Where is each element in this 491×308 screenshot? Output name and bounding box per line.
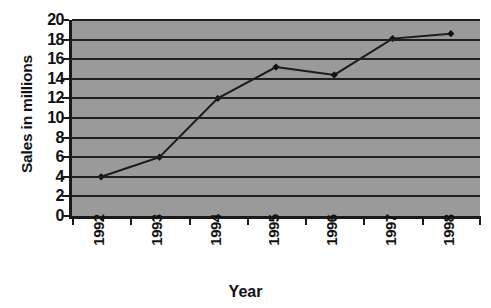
data-point-1998 xyxy=(447,30,454,37)
gridline-2 xyxy=(72,195,480,197)
data-point-1995 xyxy=(272,63,279,70)
x-tick-mark-2 xyxy=(189,216,191,225)
x-tick-label-1992: 1992 xyxy=(90,207,107,253)
x-tick-mark-0 xyxy=(72,216,74,225)
x-tick-mark-5 xyxy=(363,216,365,225)
x-tick-mark-4 xyxy=(305,216,307,225)
y-tick-label-18: 18 xyxy=(38,32,64,48)
gridline-20 xyxy=(72,19,480,21)
plot-area xyxy=(69,20,480,219)
y-tick-mark-20 xyxy=(62,19,69,21)
gridline-10 xyxy=(72,117,480,119)
y-tick-mark-0 xyxy=(62,215,69,217)
x-tick-label-1993: 1993 xyxy=(148,207,165,253)
y-tick-label-2: 2 xyxy=(38,188,64,204)
y-tick-label-12: 12 xyxy=(38,90,64,106)
y-tick-mark-10 xyxy=(62,117,69,119)
y-axis-tick-labels: 02468101214161820 xyxy=(26,0,64,308)
x-tick-label-1998: 1998 xyxy=(440,207,457,253)
y-tick-label-4: 4 xyxy=(38,169,64,185)
line-chart: = = = Sales in millions 0246810121416182… xyxy=(0,0,491,308)
y-tick-label-10: 10 xyxy=(38,110,64,126)
y-tick-mark-18 xyxy=(62,39,69,41)
x-tick-mark-3 xyxy=(247,216,249,225)
gridline-16 xyxy=(72,58,480,60)
x-tick-label-1997: 1997 xyxy=(382,207,399,253)
y-tick-mark-8 xyxy=(62,137,69,139)
y-tick-mark-16 xyxy=(62,58,69,60)
x-tick-label-1996: 1996 xyxy=(323,207,340,253)
y-tick-mark-2 xyxy=(62,195,69,197)
y-tick-label-6: 6 xyxy=(38,149,64,165)
gridline-18 xyxy=(72,39,480,41)
y-tick-label-20: 20 xyxy=(38,12,64,28)
x-tick-mark-6 xyxy=(422,216,424,225)
y-tick-mark-14 xyxy=(62,78,69,80)
y-tick-mark-6 xyxy=(62,156,69,158)
gridline-8 xyxy=(72,137,480,139)
x-tick-label-1994: 1994 xyxy=(207,207,224,253)
x-tick-mark-1 xyxy=(130,216,132,225)
gridline-6 xyxy=(72,156,480,158)
gridline-14 xyxy=(72,78,480,80)
y-tick-label-14: 14 xyxy=(38,71,64,87)
y-tick-label-8: 8 xyxy=(38,130,64,146)
y-tick-mark-12 xyxy=(62,97,69,99)
x-tick-label-1995: 1995 xyxy=(265,207,282,253)
y-tick-label-16: 16 xyxy=(38,51,64,67)
gridline-4 xyxy=(72,176,480,178)
x-axis-title: Year xyxy=(0,283,491,301)
y-tick-label-0: 0 xyxy=(38,208,64,224)
cropped-title-remnant: = = = xyxy=(160,0,460,3)
gridline-12 xyxy=(72,97,480,99)
y-tick-mark-4 xyxy=(62,176,69,178)
x-tick-mark-7 xyxy=(479,216,481,225)
